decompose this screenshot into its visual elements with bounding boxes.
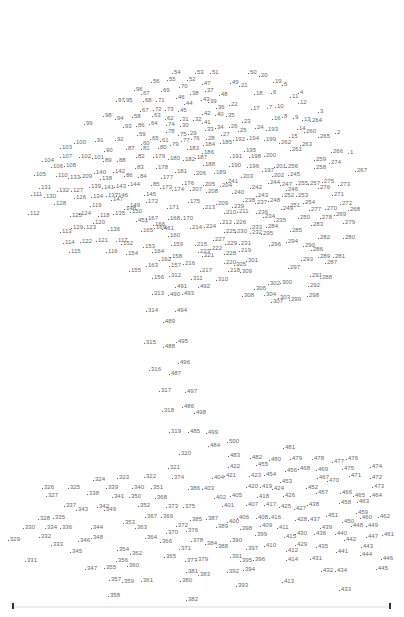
numbered-dot: 15: [291, 133, 298, 139]
numbered-dot: 199: [266, 136, 276, 142]
numbered-dot: 413: [284, 578, 294, 584]
numbered-dot: 328: [40, 515, 50, 521]
numbered-dot: 108: [66, 162, 76, 168]
numbered-dot: 188: [205, 161, 215, 167]
numbered-dot: 381: [188, 568, 198, 574]
numbered-dot: 30: [182, 122, 189, 128]
numbered-dot: 284: [268, 223, 278, 229]
numbered-dot: 423: [251, 472, 261, 478]
numbered-dot: 377: [187, 557, 197, 563]
numbered-dot: 85: [153, 181, 160, 187]
numbered-dot: 456: [287, 467, 297, 473]
numbered-dot: 486: [184, 403, 194, 409]
numbered-dot: 436: [316, 530, 326, 536]
numbered-dot: 294: [288, 238, 298, 244]
numbered-dot: 59: [139, 131, 146, 137]
numbered-dot: 308: [244, 292, 254, 298]
numbered-dot: 228: [226, 250, 236, 256]
numbered-dot: 81: [143, 145, 150, 151]
numbered-dot: 168: [170, 215, 180, 221]
numbered-dot: 494: [177, 307, 187, 313]
numbered-dot: 469: [318, 466, 328, 472]
numbered-dot: 398: [242, 525, 252, 531]
numbered-dot: 258: [316, 164, 326, 170]
numbered-dot: 327: [48, 492, 58, 498]
numbered-dot: 16: [274, 115, 281, 121]
numbered-dot: 443: [363, 543, 373, 549]
numbered-dot: 86: [138, 122, 145, 128]
numbered-dot: 338: [89, 490, 99, 496]
numbered-dot: 295: [263, 230, 273, 236]
numbered-dot: 460: [362, 514, 372, 520]
numbered-dot: 34: [217, 124, 224, 130]
numbered-dot: 497: [187, 388, 197, 394]
numbered-dot: 183: [189, 145, 199, 151]
numbered-dot: 262: [281, 139, 291, 145]
numbered-dot: 434: [337, 567, 347, 573]
numbered-dot: 216: [185, 260, 195, 266]
numbered-dot: 397: [248, 545, 258, 551]
numbered-dot: 214: [192, 224, 202, 230]
numbered-dot: 25: [240, 127, 247, 133]
numbered-dot: 88: [119, 157, 126, 163]
numbered-dot: 369: [163, 513, 173, 519]
numbered-dot: 373: [168, 503, 178, 509]
numbered-dot: 452: [308, 484, 318, 490]
numbered-dot: 70: [181, 83, 188, 89]
numbered-dot: 357: [111, 576, 121, 582]
numbered-dot: 71: [158, 97, 165, 103]
numbered-dot: 234: [265, 213, 275, 219]
numbered-dot: 146: [118, 192, 128, 198]
numbered-dot: 35: [228, 112, 235, 118]
numbered-dot: 467: [319, 474, 329, 480]
numbered-dot: 209: [82, 173, 92, 179]
numbered-dot: 306: [256, 285, 266, 291]
numbered-dot: 68: [145, 97, 152, 103]
numbered-dot: 26: [231, 123, 238, 129]
numbered-dot: 392: [229, 568, 239, 574]
numbered-dot: 326: [44, 484, 54, 490]
numbered-dot: 254: [305, 199, 315, 205]
numbered-dot: 193: [268, 126, 278, 132]
numbered-dot: 10: [277, 103, 284, 109]
numbered-dot: 400: [229, 518, 239, 524]
numbered-dot: 114: [65, 239, 75, 245]
numbered-dot: 226: [236, 219, 246, 225]
numbered-dot: 248: [270, 197, 280, 203]
numbered-dot: 154: [128, 250, 138, 256]
numbered-dot: 157: [171, 262, 181, 268]
numbered-dot: 63: [154, 112, 161, 118]
numbered-dot: 336: [62, 524, 72, 530]
numbered-dot: 45: [180, 107, 187, 113]
numbered-dot: 197: [264, 167, 274, 173]
numbered-dot: 488: [165, 343, 175, 349]
numbered-dot: 449: [368, 522, 378, 528]
numbered-dot: 138: [102, 175, 112, 181]
numbered-dot: 21: [241, 82, 248, 88]
numbered-dot: 382: [188, 596, 198, 602]
numbered-dot: 371: [181, 545, 191, 551]
numbered-dot: 315: [146, 339, 156, 345]
numbered-dot: 103: [62, 144, 72, 150]
numbered-dot: 422: [230, 463, 240, 469]
numbered-dot: 209: [218, 200, 228, 206]
numbered-dot: 40: [217, 111, 224, 117]
numbered-dot: 279: [345, 219, 355, 225]
numbered-dot: 141: [104, 184, 114, 190]
numbered-dot: 492: [200, 283, 210, 289]
numbered-dot: 285: [292, 227, 302, 233]
numbered-dot: 47: [204, 80, 211, 86]
numbered-dot: 482: [252, 454, 262, 460]
numbered-dot: 50: [250, 69, 257, 75]
numbered-dot: 337: [66, 502, 76, 508]
numbered-dot: 142: [115, 168, 125, 174]
numbered-dot: 42: [204, 110, 211, 116]
numbered-dot: 399: [257, 531, 267, 537]
numbered-dot: 243: [258, 192, 268, 198]
numbered-dot: 77: [183, 137, 190, 143]
numbered-dot: 499: [208, 429, 218, 435]
numbered-dot: 339: [108, 484, 118, 490]
numbered-dot: 352: [140, 502, 150, 508]
numbered-dot: 317: [161, 387, 171, 393]
numbered-dot: 222: [212, 245, 222, 251]
